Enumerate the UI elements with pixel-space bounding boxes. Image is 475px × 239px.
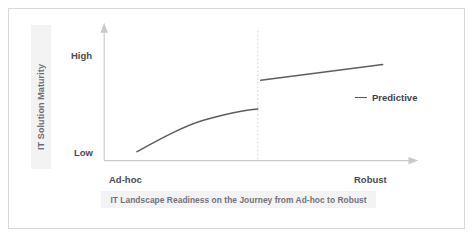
legend-line-marker-icon [355, 97, 367, 99]
series-line-adhoc-phase [137, 109, 258, 152]
y-axis [101, 23, 108, 161]
chart-legend: Predictive [355, 92, 417, 103]
x-axis [104, 157, 418, 164]
figure-card: IT Solution Maturity High Low Ad-hoc Rob… [8, 8, 465, 229]
figure-caption-background: IT Landscape Readiness on the Journey fr… [101, 191, 376, 208]
series-line-predictive-phase [261, 64, 383, 80]
legend-label-predictive: Predictive [372, 92, 417, 103]
figure-caption: IT Landscape Readiness on the Journey fr… [110, 195, 366, 205]
